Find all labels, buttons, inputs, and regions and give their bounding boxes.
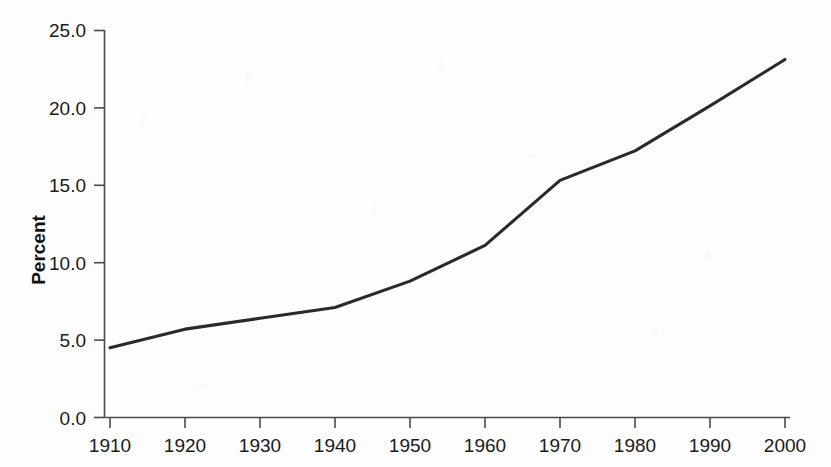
x-tick-label-1910: 1910 (89, 435, 131, 456)
y-axis: 25.0 20.0 15.0 10.0 5.0 0.0 Percent (28, 20, 105, 429)
line-chart-plot: 25.0 20.0 15.0 10.0 5.0 0.0 Percent 1910… (0, 0, 831, 467)
y-tick-label-5: 5.0 (60, 330, 86, 351)
x-axis: 1910 1920 1930 1940 1950 1960 1970 1980 … (89, 418, 806, 457)
x-tick-label-1930: 1930 (239, 435, 281, 456)
chart-figure: 25.0 20.0 15.0 10.0 5.0 0.0 Percent 1910… (0, 0, 831, 467)
x-tick-label-1990: 1990 (689, 435, 731, 456)
y-tick-label-20: 20.0 (49, 98, 86, 119)
x-tick-label-2000: 2000 (764, 435, 806, 456)
x-tick-label-1960: 1960 (464, 435, 506, 456)
data-series-line (110, 59, 785, 347)
x-tick-label-1970: 1970 (539, 435, 581, 456)
x-tick-label-1950: 1950 (389, 435, 431, 456)
y-tick-label-0: 0.0 (60, 408, 86, 429)
x-tick-label-1920: 1920 (164, 435, 206, 456)
y-tick-label-15: 15.0 (49, 175, 86, 196)
x-tick-label-1980: 1980 (614, 435, 656, 456)
x-tick-label-1940: 1940 (314, 435, 356, 456)
y-tick-label-10: 10.0 (49, 253, 86, 274)
y-axis-title: Percent (28, 214, 49, 284)
y-tick-label-25: 25.0 (49, 20, 86, 41)
